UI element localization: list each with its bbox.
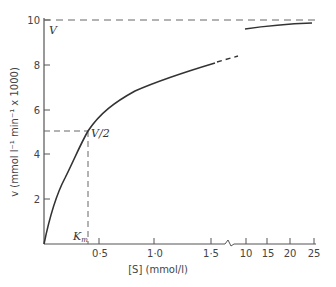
x-axis-title: [S] (mmol/l) <box>128 264 188 275</box>
y-tick-label: 4 <box>34 149 40 160</box>
y-tick-label: 8 <box>34 60 40 71</box>
x-tick-label: 0·5 <box>92 248 108 259</box>
y-tick-label: 2 <box>34 194 40 205</box>
x-tick-label: 15 <box>262 248 275 259</box>
x-tick-label: 10 <box>240 248 253 259</box>
y-ticks <box>44 20 50 199</box>
x-tick-label: 1·5 <box>203 248 219 259</box>
x-tick-label: 1·0 <box>147 248 163 259</box>
vmax-label: V <box>49 24 58 37</box>
y-axis-title: v (mmol l⁻¹ min⁻¹ x 1000) <box>9 67 20 197</box>
km-label: Km <box>72 230 88 244</box>
axis-break-icon <box>225 240 234 246</box>
y-tick-label: 6 <box>34 105 40 116</box>
curve-right-segment <box>245 23 312 29</box>
y-tick-label: 10 <box>27 15 40 26</box>
curve-left-segment <box>44 63 215 244</box>
x-tick-label: 25 <box>308 248 321 259</box>
x-tick-label: 20 <box>284 248 297 259</box>
curve-extrapolation-dashed <box>217 56 238 62</box>
x-ticks <box>99 238 314 244</box>
michaelis-menten-chart: 10 8 6 4 2 0·5 1·0 1·5 10 15 20 25 [S] (… <box>0 0 336 287</box>
half-vmax-label: V/2 <box>91 127 110 140</box>
